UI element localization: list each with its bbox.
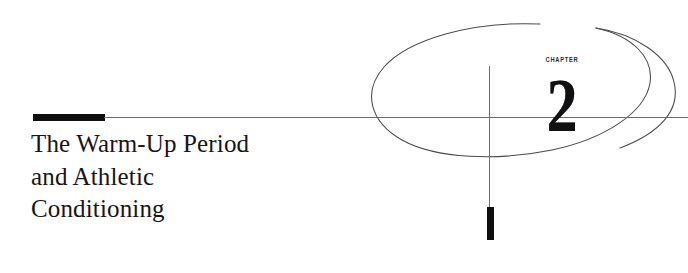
chapter-title-line-3: Conditioning [31,193,371,226]
hand-drawn-open-ellipse [372,24,651,157]
ellipse-open-tail-curve [596,28,675,148]
thick-black-vertical-tick [487,207,494,240]
chapter-title-line-2: and Athletic [31,161,371,194]
chapter-title: The Warm-Up Period and Athletic Conditio… [31,128,371,226]
chapter-title-line-1: The Warm-Up Period [31,128,371,161]
chapter-number: 2 [529,76,595,135]
thick-black-rule [33,114,105,121]
vertical-crosshair-line [489,66,490,210]
chapter-opener-page: CHAPTER 2 The Warm-Up Period and Athleti… [0,0,688,273]
chapter-number-group: CHAPTER 2 [522,56,602,135]
